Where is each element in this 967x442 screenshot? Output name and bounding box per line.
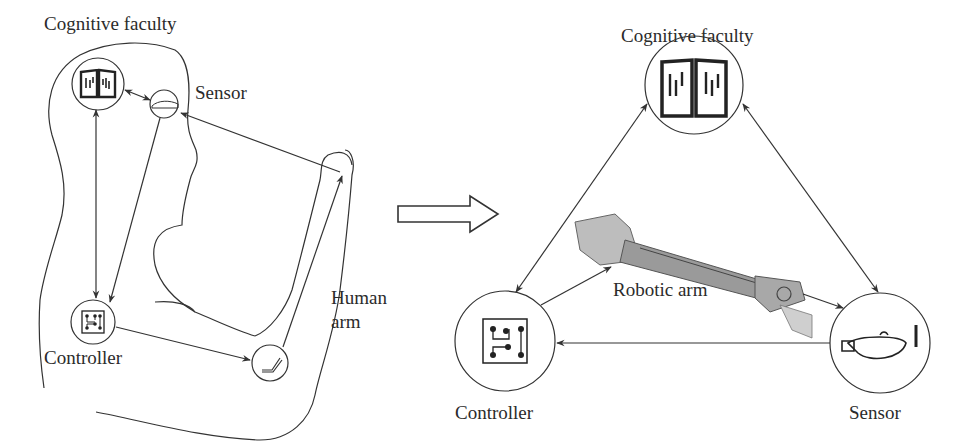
- circuit-board-icon: [82, 311, 104, 333]
- left-sensor-label: Sensor: [195, 83, 247, 102]
- right-cognitive-faculty-label: Cognitive faculty: [621, 26, 753, 45]
- circuit-board-icon: [483, 319, 527, 363]
- hollow-right-arrow-icon: [398, 196, 498, 232]
- left-controller-node: [71, 300, 115, 344]
- human-arm-label-line1: Human: [331, 288, 387, 307]
- left-controller-label: Controller: [44, 348, 122, 367]
- oil-lamp-icon: [842, 325, 916, 358]
- open-book-icon: [81, 70, 115, 97]
- robotic-arm-icon: [575, 214, 812, 338]
- human-arm-label-line2: arm: [331, 312, 361, 331]
- left-cognitive-faculty-label: Cognitive faculty: [44, 14, 176, 33]
- bent-arm-icon: [262, 358, 282, 372]
- open-book-icon: [662, 60, 726, 116]
- right-sensor-label: Sensor: [849, 403, 901, 422]
- robotic-arm-label: Robotic arm: [613, 280, 707, 299]
- oil-lamp-icon: [152, 101, 178, 108]
- right-controller-node: [455, 291, 555, 391]
- left-sensor-node: [150, 90, 178, 118]
- left-effector-node: [252, 345, 288, 381]
- right-cognitive-node: [645, 36, 743, 134]
- right-controller-label: Controller: [455, 403, 533, 422]
- right-sensor-node: [830, 293, 930, 393]
- diagram-canvas: [0, 0, 967, 442]
- left-arrows: [96, 90, 342, 360]
- left-cognitive-node: [72, 58, 124, 110]
- right-arrows: [516, 104, 878, 343]
